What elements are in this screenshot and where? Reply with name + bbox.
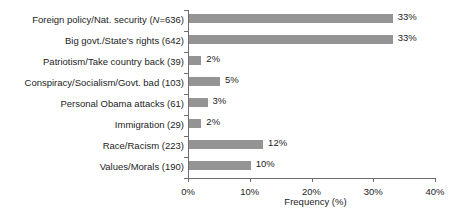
x-axis-title: Frequency (%): [0, 196, 459, 207]
bar[interactable]: [189, 14, 393, 23]
bar-value-label: 12%: [268, 137, 287, 148]
x-tick: [188, 178, 189, 182]
bar-chart: 33%33%2%5%3%2%12%10% Foreign policy/Nat.…: [0, 0, 459, 224]
x-tick: [373, 178, 374, 182]
x-tick: [312, 178, 313, 182]
category-label: Foreign policy/Nat. security (N=636): [32, 14, 184, 25]
category-label: Race/Racism (223): [103, 140, 184, 151]
bar[interactable]: [189, 77, 220, 86]
y-tick: [184, 178, 188, 179]
plot-area: 33%33%2%5%3%2%12%10%: [188, 10, 435, 178]
category-label: Conspiracy/Socialism/Govt. bad (103): [25, 77, 184, 88]
bar[interactable]: [189, 56, 201, 65]
category-label: Values/Morals (190): [100, 161, 184, 172]
bar-value-label: 10%: [256, 158, 275, 169]
bar[interactable]: [189, 119, 201, 128]
bar-row[interactable]: 3%: [188, 94, 435, 115]
x-tick: [250, 178, 251, 182]
bar-row[interactable]: 2%: [188, 52, 435, 73]
bar-value-label: 2%: [206, 116, 220, 127]
bar[interactable]: [189, 98, 208, 107]
bar[interactable]: [189, 35, 393, 44]
category-label: Immigration (29): [115, 119, 184, 130]
bar-value-label: 33%: [398, 32, 417, 43]
bar-row[interactable]: 33%: [188, 31, 435, 52]
x-tick: [435, 178, 436, 182]
bar-value-label: 2%: [206, 53, 220, 64]
bar-value-label: 33%: [398, 11, 417, 22]
bar-value-label: 3%: [213, 95, 227, 106]
bar-row[interactable]: 12%: [188, 136, 435, 157]
category-label: Personal Obama attacks (61): [60, 98, 184, 109]
bar-value-label: 5%: [225, 74, 239, 85]
category-label: Big govt./State's rights (642): [65, 35, 184, 46]
bar[interactable]: [189, 140, 263, 149]
category-label: Patriotism/Take country back (39): [43, 56, 184, 67]
bar-row[interactable]: 10%: [188, 157, 435, 178]
bar-row[interactable]: 33%: [188, 10, 435, 31]
x-axis-title-text: Frequency (%): [284, 196, 346, 207]
bar[interactable]: [189, 161, 251, 170]
bar-row[interactable]: 2%: [188, 115, 435, 136]
bar-row[interactable]: 5%: [188, 73, 435, 94]
